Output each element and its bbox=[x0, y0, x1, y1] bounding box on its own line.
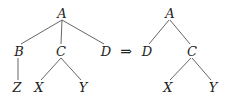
left-node-D: D bbox=[101, 45, 111, 58]
left-node-C: C bbox=[56, 45, 66, 58]
edge-left-A-D bbox=[62, 20, 104, 44]
left-node-A: A bbox=[57, 7, 66, 20]
right-node-D: D bbox=[142, 45, 152, 58]
edge-left-A-C bbox=[61, 20, 62, 44]
left-node-X: X bbox=[34, 81, 43, 94]
edge-right-C-Y bbox=[192, 58, 211, 80]
edge-left-C-X bbox=[41, 58, 61, 80]
right-node-X: X bbox=[163, 81, 172, 94]
right-node-A: A bbox=[165, 7, 174, 20]
edge-right-A-D bbox=[149, 20, 169, 44]
edge-left-A-B bbox=[21, 20, 62, 44]
left-node-Y: Y bbox=[79, 81, 88, 94]
edge-right-A-C bbox=[170, 20, 190, 44]
edge-right-C-X bbox=[170, 58, 191, 80]
right-node-Y: Y bbox=[209, 81, 218, 94]
left-node-Z: Z bbox=[12, 81, 21, 94]
edge-left-C-Y bbox=[61, 58, 81, 80]
implies-arrow-icon: ⇒ bbox=[120, 44, 132, 58]
right-node-C: C bbox=[187, 45, 197, 58]
left-node-B: B bbox=[14, 45, 24, 58]
